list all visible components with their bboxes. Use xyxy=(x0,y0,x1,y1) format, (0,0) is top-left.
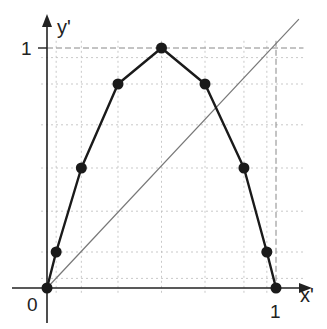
data-point-marker xyxy=(261,247,272,258)
data-point-marker xyxy=(76,163,87,174)
origin-label: 0 xyxy=(27,294,38,315)
y-axis-arrow-icon xyxy=(42,14,52,27)
data-point-marker xyxy=(42,283,53,294)
y-axis-label: y' xyxy=(57,16,71,38)
data-point-marker xyxy=(238,163,249,174)
data-point-marker xyxy=(200,79,211,90)
identity-diagonal xyxy=(47,19,299,288)
data-point-marker xyxy=(51,247,62,258)
x-tick-label-1: 1 xyxy=(270,301,281,322)
y-tick-label-1: 1 xyxy=(21,38,32,59)
x-axis-label: x' xyxy=(300,284,314,306)
data-point-marker xyxy=(271,283,282,294)
data-point-marker xyxy=(112,79,123,90)
tent-map-chart: y' x' 1 1 0 xyxy=(0,0,327,329)
data-point-marker xyxy=(156,43,167,54)
